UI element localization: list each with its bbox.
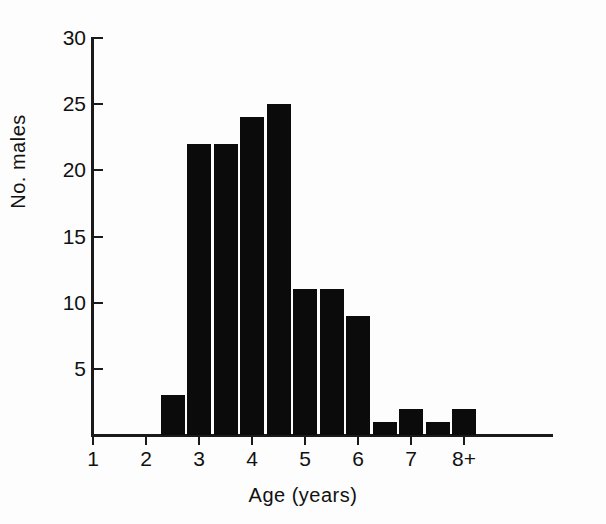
x-axis-title: Age (years) <box>0 484 606 507</box>
y-tick-label: 10 <box>40 292 86 313</box>
bar <box>293 289 317 435</box>
bar <box>373 422 397 435</box>
x-tick-label: 7 <box>387 448 435 469</box>
y-tick-label: 15 <box>40 226 86 247</box>
x-tick-mark <box>304 436 306 445</box>
bar <box>426 422 450 435</box>
x-tick-label: 6 <box>334 448 382 469</box>
x-tick-mark <box>410 436 412 445</box>
bar <box>214 144 238 435</box>
plot-area <box>93 38 553 435</box>
bar <box>346 316 370 435</box>
x-tick-label: 4 <box>228 448 276 469</box>
x-tick-label: 2 <box>122 448 170 469</box>
y-tick-label: 25 <box>40 93 86 114</box>
x-tick-mark <box>357 436 359 445</box>
x-tick-label: 8+ <box>440 448 488 469</box>
x-tick-mark <box>251 436 253 445</box>
bar <box>267 104 291 435</box>
figure-canvas: 51015202530 12345678+ Age (years) No. ma… <box>0 0 606 524</box>
y-axis-title: No. males <box>7 82 30 242</box>
x-tick-mark <box>463 436 465 445</box>
x-tick-mark <box>145 436 147 445</box>
bar <box>161 395 185 435</box>
bar <box>452 409 476 435</box>
x-tick-label: 3 <box>175 448 223 469</box>
bar <box>320 289 344 435</box>
bar <box>399 409 423 435</box>
x-tick-mark <box>198 436 200 445</box>
x-tick-label: 1 <box>69 448 117 469</box>
bar <box>240 117 264 435</box>
y-tick-label: 30 <box>40 27 86 48</box>
bar <box>187 144 211 435</box>
y-tick-label: 5 <box>40 358 86 379</box>
x-tick-mark <box>92 436 94 445</box>
y-tick-label: 20 <box>40 159 86 180</box>
x-tick-label: 5 <box>281 448 329 469</box>
